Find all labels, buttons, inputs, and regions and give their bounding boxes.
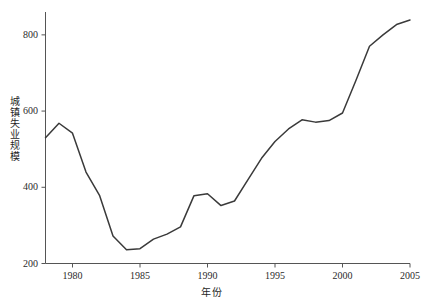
x-axis-title: 年份 — [0, 288, 424, 298]
x-axis-tick-label: 1990 — [188, 271, 228, 281]
chart-axes — [42, 12, 411, 268]
x-axis-tick-label: 1995 — [255, 271, 295, 281]
y-axis-tick-label: 800 — [8, 30, 38, 40]
y-axis-title: 城镇失业规模 — [2, 96, 18, 162]
x-axis-tick-label: 2005 — [390, 271, 424, 281]
x-axis-tick-label: 1980 — [53, 271, 93, 281]
y-axis-tick-label: 400 — [8, 182, 38, 192]
data-line-unemployment — [46, 20, 411, 250]
chart-series-group — [46, 20, 411, 250]
line-chart-plot — [0, 0, 424, 308]
x-axis-tick-label: 2000 — [323, 271, 363, 281]
y-axis-tick-label: 200 — [8, 259, 38, 269]
x-axis-ticks — [73, 264, 411, 268]
x-axis-tick-label: 1985 — [120, 271, 160, 281]
chart-container: 200400600800198019851990199520002005 城镇失… — [0, 0, 424, 308]
y-axis-ticks — [42, 35, 46, 264]
